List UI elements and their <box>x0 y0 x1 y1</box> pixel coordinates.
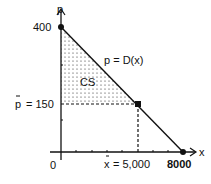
y-top-label: 400 <box>33 21 51 33</box>
point-x-intercept <box>180 149 186 155</box>
y-axis-label: p <box>57 3 63 15</box>
point-equilibrium <box>135 101 141 107</box>
x-end-label: 8000 <box>167 158 191 170</box>
x-bar-value: = 5,000 <box>113 158 150 170</box>
x-bar-label: x <box>104 158 110 170</box>
consumer-surplus-chart: p x 400 p = 150 0 x = 5,000 8000 p = D(x… <box>0 0 211 184</box>
origin-label: 0 <box>50 159 56 171</box>
x-axis-label: x <box>199 146 205 158</box>
curve-label: p = D(x) <box>104 54 143 66</box>
p-bar-label: p <box>15 98 21 110</box>
point-y-intercept <box>58 24 64 30</box>
region-label: CS <box>80 76 95 88</box>
p-bar-value: = 150 <box>26 98 54 110</box>
